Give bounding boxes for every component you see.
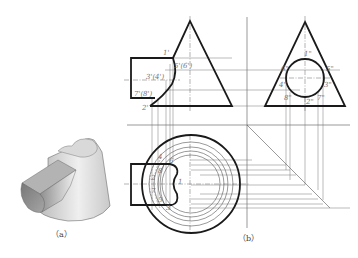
label-7-top: 7 [151,187,156,195]
caption-b: （b） [238,234,259,243]
caption-a: （a） [51,230,72,239]
label-5-top: 5 [158,196,163,204]
label-7-dprime: 7" [317,94,325,102]
side-view: 1" 6" 5" 4" 3" 8" 2" 7" [265,16,345,112]
label-6-top: 6 [169,157,174,165]
label-8-top: 8 [158,167,163,175]
label-1-top: 1 [178,178,182,186]
label-2-dprime: 2" [305,98,314,106]
top-view: 4 6 8 2 1 7 5 3 （b） [124,135,259,243]
label-2-top: 2 [150,174,156,182]
label-1-dprime: 1" [304,50,312,58]
isometric-view: （a） [21,138,110,239]
label-4-dprime: 4" [278,81,287,89]
label-3-dprime: 3" [324,81,332,89]
label-1-prime: 1' [163,49,169,57]
label-3-top: 3 [166,204,171,212]
label-3-4-prime: 3'(4') [146,73,164,81]
label-5-6-prime: 5'(6') [174,62,192,70]
front-view: 1' 3'(4') 5'(6') 7'(8') 2' [124,16,232,112]
label-2-prime: 2' [141,104,148,112]
label-5-dprime: 5" [326,65,334,73]
label-8-dprime: 8" [284,94,292,102]
label-6-dprime: 6" [281,65,289,73]
projection-drawing: （a） [0,0,358,258]
label-7-8-prime: 7'(8') [134,90,152,98]
label-4-top: 4 [157,153,162,161]
